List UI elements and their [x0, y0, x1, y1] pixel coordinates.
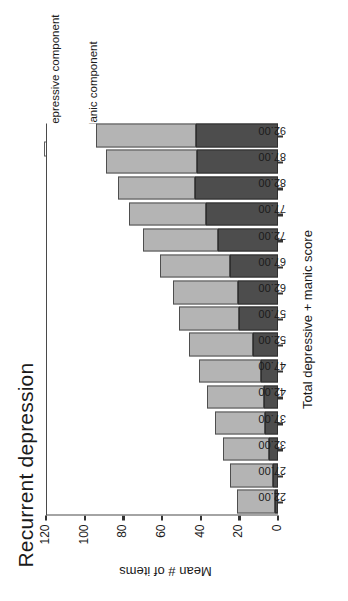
legend-label-depressive: Depressive component [49, 14, 61, 132]
x-tick-label: 42.00 [258, 385, 286, 397]
y-tick-label: 0 [270, 524, 284, 594]
bar-segment-depressive [173, 280, 239, 304]
y-tick-mark [238, 515, 240, 520]
x-tick-label: 67.00 [258, 255, 286, 267]
y-tick-mark [277, 515, 279, 520]
bar-group [118, 176, 278, 200]
bar-segment-depressive [207, 385, 263, 409]
y-tick-label: 60 [154, 524, 168, 594]
y-tick-mark [84, 515, 86, 520]
bar-group [96, 123, 278, 147]
chart-figure: Recurrent depression Depressive componen… [0, 0, 348, 601]
x-tick-label: 32.00 [258, 438, 286, 450]
bar-segment-depressive [129, 202, 206, 226]
y-axis: 020406080100120 Mean # of items [46, 515, 278, 601]
y-tick-label: 40 [193, 524, 207, 594]
bar-segment-depressive [143, 228, 218, 252]
y-axis-title: Mean # of items [76, 564, 256, 579]
plot-area [47, 123, 278, 514]
y-tick-label: 80 [115, 524, 129, 594]
x-tick-label: 62.00 [258, 281, 286, 293]
y-tick-mark [45, 515, 47, 520]
y-tick-label: 120 [38, 524, 52, 594]
x-tick-label: 77.00 [258, 202, 286, 214]
bar-segment-depressive [189, 332, 253, 356]
bar-group [106, 149, 278, 173]
x-tick-label: 87.00 [258, 150, 286, 162]
bar-segment-depressive [118, 176, 195, 200]
x-tick-label: 72.00 [258, 229, 286, 241]
bar-segment-depressive [179, 306, 239, 330]
x-tick-label: 37.00 [258, 412, 286, 424]
x-tick-label: 27.00 [258, 464, 286, 476]
y-tick-mark [122, 515, 124, 520]
chart-title: Recurrent depression [14, 362, 38, 567]
x-tick-label: 82.00 [258, 176, 286, 188]
x-tick-label: 22.00 [258, 490, 286, 502]
x-tick-label: 57.00 [258, 307, 286, 319]
bar-segment-depressive [160, 254, 230, 278]
plot-frame [46, 123, 278, 515]
y-tick-label: 100 [77, 524, 91, 594]
y-tick-label: 20 [231, 524, 245, 594]
bar-segment-depressive [96, 123, 196, 147]
x-tick-label: 47.00 [258, 359, 286, 371]
bar-segment-depressive [106, 149, 197, 173]
y-tick-mark [200, 515, 202, 520]
x-axis-title: Total depressive + manic score [300, 123, 315, 515]
bar-group [129, 202, 278, 226]
bar-segment-depressive [199, 359, 261, 383]
x-tick-label: 52.00 [258, 333, 286, 345]
x-tick-label: 92.00 [258, 124, 286, 136]
y-tick-mark [161, 515, 163, 520]
legend-label-manic: Manic component [87, 41, 99, 132]
